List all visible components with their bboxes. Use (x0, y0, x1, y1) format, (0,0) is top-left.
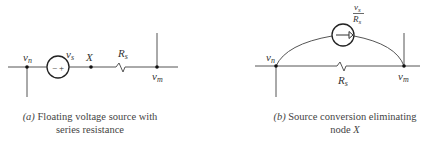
label-vn-b: vn (266, 51, 275, 65)
fraction-numerator: vs (354, 2, 361, 14)
resistor-rs-a (116, 63, 178, 72)
label-vs-a: vs (66, 48, 74, 62)
caption-a: (a) Floating voltage source with series … (10, 110, 170, 136)
arc-right (354, 36, 404, 66)
caption-b-line1: Source conversion eliminating (288, 111, 416, 122)
source-plus-sign: + (59, 63, 64, 73)
label-rs-b: Rs (337, 74, 348, 88)
label-vn-a: vn (23, 51, 32, 65)
source-minus-sign: − (52, 63, 57, 73)
node-vm-a (155, 65, 159, 69)
node-vm-b (402, 64, 406, 68)
caption-b-line2-var: X (353, 124, 359, 135)
node-vn-a (25, 65, 29, 69)
fraction-vs-over-rs: vs Rs (352, 2, 364, 26)
label-vm-a: vm (152, 70, 163, 84)
diagram-b (255, 24, 420, 97)
caption-a-line2: series resistance (10, 123, 170, 136)
label-vm-b: vm (398, 70, 409, 84)
caption-b: (b) Source conversion eliminating node X (265, 110, 425, 136)
resistor-rs-b (337, 62, 420, 71)
diagram-a (8, 33, 178, 97)
arrow-right-icon (349, 32, 353, 39)
caption-a-line1: Floating voltage source with (38, 111, 158, 122)
caption-b-tag: (b) (273, 111, 285, 122)
node-x (89, 65, 93, 69)
caption-a-tag: (a) (23, 111, 35, 122)
label-rs-a: Rs (117, 47, 128, 61)
caption-b-line2-prefix: node (330, 124, 353, 135)
fraction-denominator: Rs (352, 14, 362, 26)
arc-left (276, 36, 332, 66)
label-x: X (85, 51, 94, 63)
